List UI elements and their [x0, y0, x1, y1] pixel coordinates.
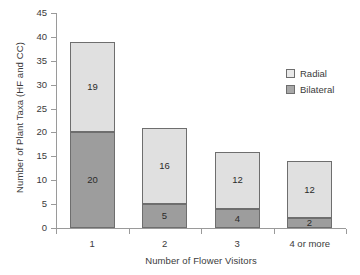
y-tick-label: 40: [21, 32, 47, 42]
legend-swatch-bilateral-icon: [286, 85, 295, 94]
legend-swatch-radial-icon: [286, 69, 295, 78]
bar-value-label: 20: [87, 175, 98, 185]
y-tick: [51, 61, 56, 62]
bar-value-label: 2: [307, 218, 312, 228]
y-tick-label: 0: [21, 223, 47, 233]
y-tick: [51, 37, 56, 38]
y-tick-label: 15: [21, 151, 47, 161]
stacked-bar-chart: Number of Plant Taxa (HF and CC) 0510152…: [0, 0, 360, 275]
y-tick: [51, 156, 56, 157]
x-tick: [201, 229, 202, 234]
legend: Radial Bilateral: [286, 68, 334, 100]
y-tick: [51, 85, 56, 86]
y-tick-label: 45: [21, 8, 47, 18]
y-tick-label: 5: [21, 199, 47, 209]
y-axis-title: Number of Plant Taxa (HF and CC): [14, 13, 25, 223]
legend-item-radial[interactable]: Radial: [286, 68, 334, 79]
bar-segment-bilateral: 20: [70, 132, 115, 228]
x-tick: [346, 229, 347, 234]
x-axis-title: Number of Flower Visitors: [56, 255, 346, 266]
y-tick-label: 20: [21, 127, 47, 137]
x-tick: [274, 229, 275, 234]
bar-value-label: 19: [87, 82, 98, 92]
bar-value-label: 5: [162, 211, 167, 221]
x-tick: [129, 229, 130, 234]
y-tick: [51, 132, 56, 133]
bar-segment-bilateral: 5: [142, 204, 187, 228]
y-tick-label: 25: [21, 104, 47, 114]
x-tick: [56, 229, 57, 234]
legend-label-radial: Radial: [300, 69, 327, 79]
y-tick-label: 10: [21, 175, 47, 185]
y-tick-label: 30: [21, 80, 47, 90]
y-tick-label: 35: [21, 56, 47, 66]
bar-segment-bilateral: 2: [287, 218, 332, 228]
bar-segment-radial: 12: [287, 161, 332, 218]
bar-segment-radial: 16: [142, 128, 187, 204]
bar-segment-bilateral: 4: [215, 209, 260, 228]
bar-segment-radial: 12: [215, 152, 260, 209]
y-tick: [51, 180, 56, 181]
bar-value-label: 16: [159, 161, 170, 171]
y-tick: [51, 204, 56, 205]
legend-label-bilateral: Bilateral: [300, 85, 334, 95]
y-tick: [51, 13, 56, 14]
bar-value-label: 4: [235, 214, 240, 224]
legend-item-bilateral[interactable]: Bilateral: [286, 84, 334, 95]
y-axis-line: [56, 13, 57, 229]
bar-segment-radial: 19: [70, 42, 115, 133]
y-tick: [51, 109, 56, 110]
x-tick-label: 4 or more: [265, 238, 355, 249]
bar-value-label: 12: [304, 185, 315, 195]
bar-value-label: 12: [232, 175, 243, 185]
